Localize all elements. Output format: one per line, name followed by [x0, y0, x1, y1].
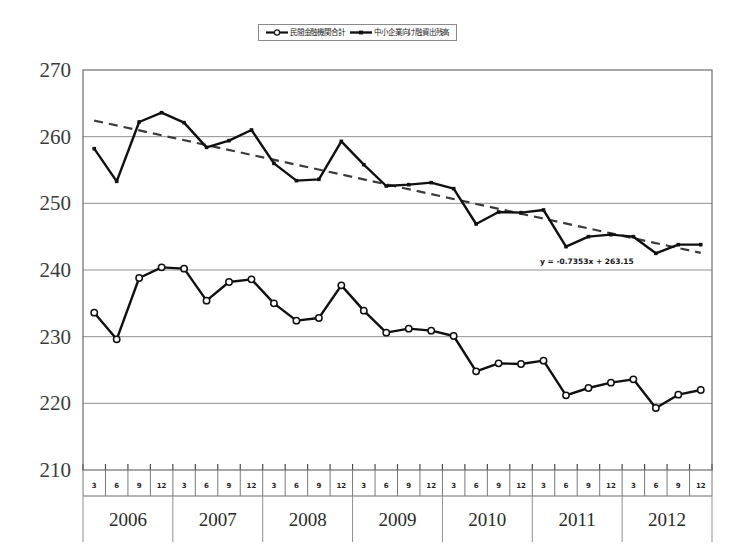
data-point-sme-loans	[474, 222, 478, 226]
y-axis-labels-group: 210220230240250260270	[40, 58, 72, 482]
data-point-sme-loans	[182, 121, 186, 125]
x-axis-quarter-label: 6	[474, 482, 479, 490]
chart-plot-area: 210220230240250260270 369123691236912369…	[0, 0, 752, 556]
data-point-private-financial-total	[608, 379, 614, 385]
y-axis-tick-label: 240	[40, 258, 72, 282]
x-axis-quarter-label: 3	[541, 482, 546, 490]
data-point-sme-loans	[497, 210, 501, 214]
y-axis-tick-label: 270	[40, 58, 72, 82]
legend-marker-open-circle	[266, 28, 288, 37]
y-axis-tick-label: 230	[40, 325, 72, 349]
data-point-sme-loans	[654, 252, 658, 256]
data-point-sme-loans	[205, 146, 209, 150]
data-point-private-financial-total	[675, 391, 681, 397]
x-axis-quarter-label: 12	[426, 482, 436, 490]
data-point-private-financial-total	[630, 376, 636, 382]
x-axis-year-label: 2010	[468, 509, 506, 530]
y-axis-tick-label: 220	[40, 391, 72, 415]
x-axis-year-label: 2012	[648, 509, 686, 530]
data-point-private-financial-total	[653, 405, 659, 411]
data-point-private-financial-total	[406, 325, 412, 331]
data-point-private-financial-total	[585, 385, 591, 391]
data-point-private-financial-total	[563, 392, 569, 398]
data-point-private-financial-total	[226, 279, 232, 285]
legend-entry-private-financial-total: 民間金融機関合計	[266, 28, 344, 37]
data-point-sme-loans	[632, 235, 636, 239]
data-point-sme-loans	[407, 183, 411, 187]
data-point-sme-loans	[115, 180, 119, 184]
data-point-sme-loans	[384, 184, 388, 188]
y-axis-tick-label: 250	[40, 191, 72, 215]
data-point-sme-loans	[340, 140, 344, 144]
data-point-sme-loans	[160, 111, 164, 115]
x-axis-quarter-label: 6	[204, 482, 209, 490]
x-axis-quarter-label: 9	[676, 482, 681, 490]
data-point-private-financial-total	[136, 275, 142, 281]
x-axis-quarter-label: 12	[516, 482, 526, 490]
x-axis-quarter-label: 9	[227, 482, 232, 490]
x-axis-quarter-label: 3	[451, 482, 456, 490]
x-axis-quarter-label: 3	[361, 482, 366, 490]
chart-legend: 民間金融機関合計 中小企業向け融資出残高	[258, 24, 457, 41]
x-axis-quarter-label: 12	[247, 482, 257, 490]
data-point-private-financial-total	[293, 317, 299, 323]
data-point-sme-loans	[519, 211, 523, 215]
data-point-private-financial-total	[271, 300, 277, 306]
data-point-sme-loans	[92, 147, 96, 151]
legend-marker-solid-line	[350, 28, 372, 37]
x-axis-quarter-label: 9	[316, 482, 321, 490]
x-axis-group: 3691236912369123691236912369123691220062…	[83, 464, 712, 542]
x-axis-quarter-label: 12	[606, 482, 616, 490]
data-point-sme-loans	[227, 139, 231, 143]
x-axis-quarter-label: 9	[406, 482, 411, 490]
data-point-sme-loans	[677, 243, 681, 247]
data-point-private-financial-total	[698, 387, 704, 393]
x-axis-quarter-label: 6	[653, 482, 658, 490]
data-point-sme-loans	[250, 128, 254, 132]
x-axis-year-label: 2007	[199, 509, 237, 530]
x-axis-year-label: 2011	[559, 509, 596, 530]
data-point-private-financial-total	[158, 264, 164, 270]
data-point-sme-loans	[429, 181, 433, 185]
data-point-private-financial-total	[518, 361, 524, 367]
data-point-sme-loans	[137, 120, 141, 124]
x-axis-year-label: 2008	[289, 509, 327, 530]
x-axis-quarter-label: 6	[294, 482, 299, 490]
y-axis-tick-label: 260	[40, 125, 72, 149]
data-point-sme-loans	[699, 243, 703, 247]
x-axis-quarter-label: 12	[157, 482, 167, 490]
x-axis-quarter-label: 3	[182, 482, 187, 490]
data-point-sme-loans	[317, 178, 321, 182]
data-point-private-financial-total	[181, 265, 187, 271]
x-axis-quarter-label: 12	[336, 482, 346, 490]
legend-label-sme-loans: 中小企業向け融資出残高	[374, 28, 449, 37]
x-axis-quarter-label: 9	[496, 482, 501, 490]
x-axis-quarter-label: 9	[137, 482, 142, 490]
data-point-sme-loans	[272, 162, 276, 166]
trendline-equation-label: y = -0.7353x + 263.15	[540, 257, 634, 266]
data-point-sme-loans	[587, 235, 591, 239]
data-point-private-financial-total	[203, 297, 209, 303]
data-point-private-financial-total	[316, 315, 322, 321]
data-point-sme-loans	[609, 233, 613, 237]
x-axis-quarter-label: 12	[696, 482, 706, 490]
x-axis-quarter-label: 9	[586, 482, 591, 490]
data-point-private-financial-total	[450, 333, 456, 339]
gridlines-group	[83, 137, 712, 404]
data-point-sme-loans	[362, 163, 366, 167]
data-point-private-financial-total	[428, 327, 434, 333]
y-axis-tick-label: 210	[40, 458, 72, 482]
legend-entry-sme-loans: 中小企業向け融資出残高	[350, 28, 449, 37]
chart-container: 民間金融機関合計 中小企業向け融資出残高 2102202302402502602…	[0, 0, 752, 556]
series-line-private-financial-total	[94, 267, 701, 408]
data-point-private-financial-total	[338, 282, 344, 288]
data-point-private-financial-total	[361, 307, 367, 313]
data-point-private-financial-total	[473, 368, 479, 374]
data-point-private-financial-total	[248, 276, 254, 282]
data-point-private-financial-total	[495, 360, 501, 366]
data-point-private-financial-total	[91, 309, 97, 315]
x-axis-quarter-label: 6	[384, 482, 389, 490]
x-axis-year-label: 2009	[379, 509, 417, 530]
data-point-sme-loans	[295, 179, 299, 183]
data-point-private-financial-total	[383, 329, 389, 335]
